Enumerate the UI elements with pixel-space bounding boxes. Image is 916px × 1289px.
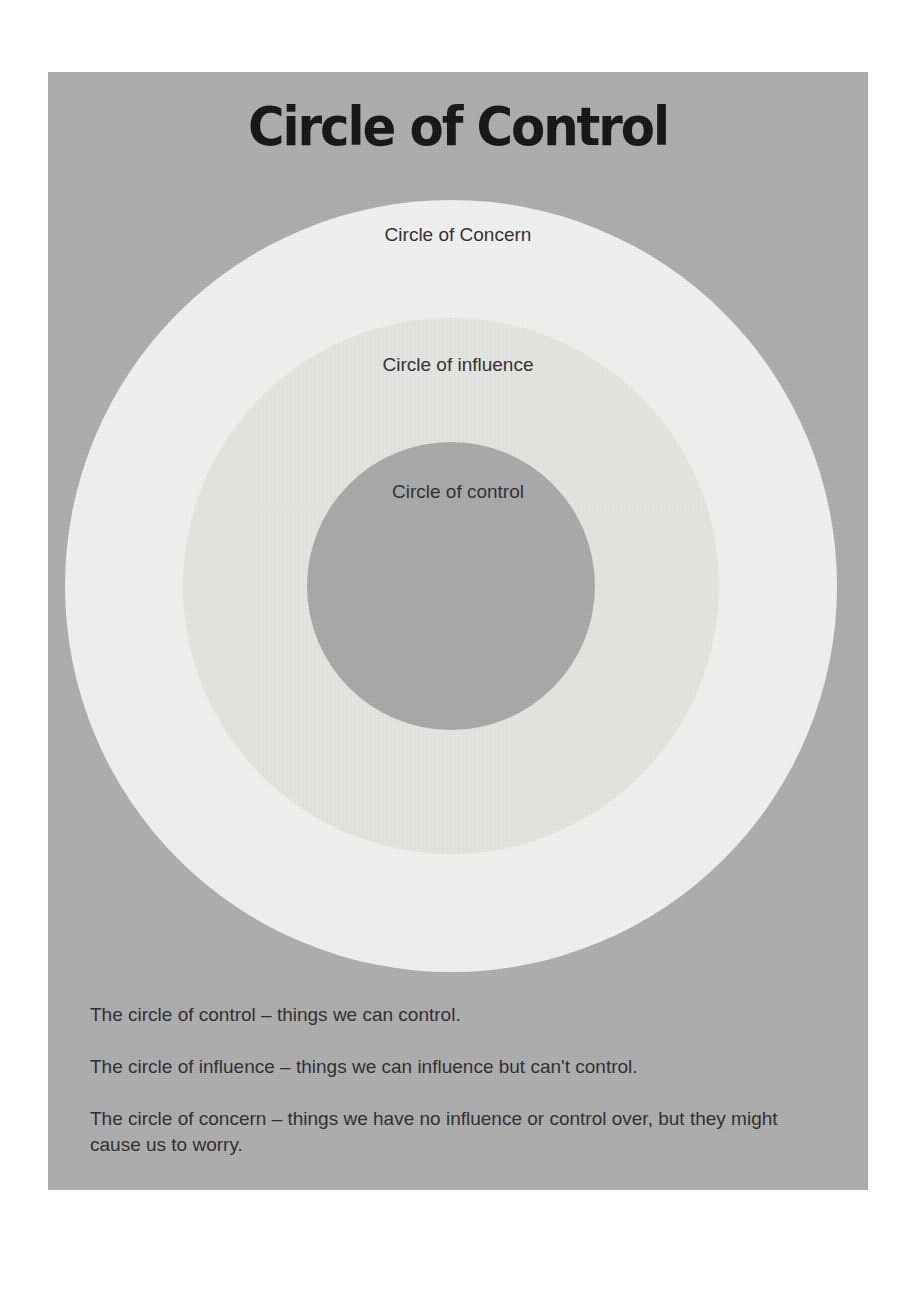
- concentric-circles-diagram: [48, 72, 868, 1032]
- note-concern: The circle of concern – things we have n…: [90, 1106, 790, 1158]
- ring-label-concern: Circle of Concern: [48, 224, 868, 246]
- ring-label-influence: Circle of influence: [48, 354, 868, 376]
- poster: Circle of Control Circle of Concern Circ…: [48, 72, 868, 1190]
- notes-list: The circle of control – things we can co…: [90, 1002, 790, 1158]
- note-control: The circle of control – things we can co…: [90, 1002, 790, 1028]
- page-title: Circle of Control: [73, 98, 844, 156]
- note-influence: The circle of influence – things we can …: [90, 1054, 790, 1080]
- ring-label-control: Circle of control: [48, 481, 868, 503]
